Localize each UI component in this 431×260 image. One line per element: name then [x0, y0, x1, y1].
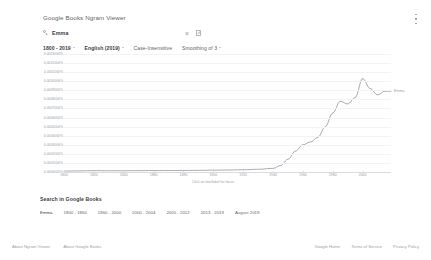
search-row: Emma	[43, 28, 208, 39]
chevron-down-icon	[122, 47, 124, 48]
footer-link[interactable]: About Ngram Viewer	[12, 244, 50, 249]
y-axis-tick-label: 0.0003000%	[44, 143, 63, 147]
filter-control-3[interactable]: Smoothing of 3	[182, 45, 221, 51]
y-axis-tick-label: 0.0001000%	[44, 161, 63, 165]
book-range-chip[interactable]: August 2019	[235, 210, 259, 215]
y-axis-tick-label: 0.0013000%	[44, 52, 63, 56]
chevron-down-icon	[219, 47, 221, 48]
footer-link[interactable]: Terms of Service	[351, 244, 382, 249]
book-range-chip[interactable]: 1800 - 1860	[64, 210, 87, 215]
book-query-chip[interactable]: Emma	[40, 210, 53, 215]
y-axis-tick-label: 0.0012000%	[44, 61, 63, 65]
ngram-chart: 0.0013000%0.0012000%0.0011000%0.0010000%…	[33, 54, 393, 176]
book-range-chip[interactable]: 2000 - 2004	[132, 210, 155, 215]
clear-icon[interactable]	[185, 31, 189, 35]
x-axis-tick-label: 1900	[209, 173, 217, 177]
footer-link[interactable]: Google Home	[315, 244, 341, 249]
book-range-chips: Emma1800 - 18601860 - 20002000 - 2004200…	[40, 210, 390, 215]
x-axis-tick-label: 1880	[180, 173, 188, 177]
footer-link[interactable]: Privacy Policy	[393, 244, 419, 249]
y-axis-tick-label: 0.0004000%	[44, 134, 63, 138]
filter-control-1[interactable]: English (2019)	[85, 45, 124, 51]
footer-link[interactable]: About Google Books	[63, 244, 101, 249]
filter-label: 1800 - 2019	[43, 45, 71, 51]
book-range-chip[interactable]: 1860 - 2000	[98, 210, 121, 215]
book-range-chip[interactable]: 2005 - 2012	[166, 210, 189, 215]
x-axis-tick-label: 1940	[269, 173, 277, 177]
chevron-down-icon	[73, 47, 75, 48]
filter-row: 1800 - 2019English (2019)Case-Insensitiv…	[43, 43, 231, 52]
filter-control-2[interactable]: Case-Insensitive	[134, 45, 172, 51]
page-title: Google Books Ngram Viewer	[43, 14, 126, 21]
y-axis-tick-label: 0.0007000%	[44, 106, 63, 110]
x-axis-tick-label: 1920	[239, 173, 247, 177]
y-axis-tick-label: 0.0011000%	[44, 70, 63, 74]
x-axis-tick-label: 1820	[90, 173, 98, 177]
x-axis-tick-label: 1960	[299, 173, 307, 177]
x-axis-tick-label: 1860	[150, 173, 158, 177]
filter-label: English (2019)	[85, 45, 120, 51]
y-axis-tick-label: 0.0006000%	[44, 116, 63, 120]
filter-control-0[interactable]: 1800 - 2019	[43, 45, 75, 51]
search-in-google-books-section: Search in Google Books Emma1800 - 186018…	[40, 196, 390, 215]
search-icon	[43, 30, 48, 35]
x-axis-tick-label: 1980	[329, 173, 337, 177]
share-icon[interactable]	[196, 30, 201, 35]
y-axis-labels: 0.0013000%0.0012000%0.0011000%0.0010000%…	[33, 54, 63, 172]
series-label-emma[interactable]: Emma	[394, 89, 405, 93]
footer-links-right: Google HomeTerms of ServicePrivacy Polic…	[315, 244, 419, 249]
kebab-dot	[415, 23, 416, 24]
chart-plot-area[interactable]: Emma	[64, 54, 391, 172]
filter-label: Case-Insensitive	[134, 45, 172, 51]
app-header: Google Books Ngram Viewer	[0, 0, 431, 24]
search-actions	[185, 30, 209, 38]
kebab-menu-icon[interactable]	[413, 13, 419, 25]
kebab-dot	[415, 14, 416, 15]
filter-label: Smoothing of 3	[182, 45, 217, 51]
y-axis-tick-label: 0.0005000%	[44, 125, 63, 129]
book-range-chip[interactable]: 2013 - 2019	[201, 210, 224, 215]
ngram-viewer-page: Google Books Ngram Viewer Emma 1800 - 20…	[0, 0, 431, 260]
page-footer: About Ngram ViewerAbout Google Books Goo…	[0, 244, 431, 253]
x-axis-tick-label: 2000	[359, 173, 367, 177]
y-axis-tick-label: 0.0002000%	[44, 152, 63, 156]
kebab-dot	[415, 18, 416, 19]
y-axis-tick-label: 0.0009000%	[44, 88, 63, 92]
x-axis-tick-label: 1840	[120, 173, 128, 177]
x-axis-tick-label: 1800	[60, 173, 68, 177]
y-axis-tick-label: 0.0008000%	[44, 97, 63, 101]
section-title: Search in Google Books	[40, 196, 390, 202]
footer-links-left: About Ngram ViewerAbout Google Books	[12, 244, 114, 249]
y-axis-tick-label: 0.0010000%	[44, 79, 63, 83]
search-input[interactable]: Emma	[52, 30, 69, 36]
chart-caption: Click on line/label for focus	[33, 180, 393, 184]
